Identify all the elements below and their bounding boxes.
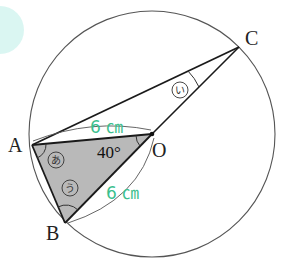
decorative-blob xyxy=(0,6,24,54)
length-label-OB: 6 ㎝ xyxy=(106,183,139,203)
point-label-A: A xyxy=(8,134,23,156)
triangle-AOB xyxy=(32,134,152,223)
geometry-diagram: あ う い A B C O 40° 6 ㎝ 6 ㎝ xyxy=(0,0,283,259)
segment-AC xyxy=(32,47,239,145)
length-label-OA: 6 ㎝ xyxy=(90,117,123,137)
point-label-C: C xyxy=(245,27,258,49)
svg-text:い: い xyxy=(175,85,185,96)
svg-text:あ: あ xyxy=(51,155,61,166)
angle-arc-C xyxy=(188,71,199,87)
angle-label-40: 40° xyxy=(97,143,121,162)
point-O-dot xyxy=(150,132,155,137)
svg-text:う: う xyxy=(65,183,75,194)
segment-CO xyxy=(152,47,239,134)
point-label-B: B xyxy=(46,222,59,244)
angle-marker-i: い xyxy=(172,82,188,98)
point-label-O: O xyxy=(152,139,166,161)
